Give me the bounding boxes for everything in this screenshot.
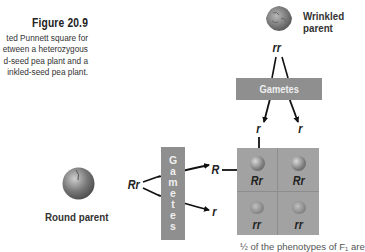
line-rr-left (272, 57, 276, 78)
wrinkled-genotype: rr (272, 41, 280, 55)
gametes-box-top: Gametes (236, 78, 322, 100)
gamete-allele: r (212, 205, 216, 219)
gamete-allele: r (298, 122, 302, 136)
gamete-allele: r (256, 122, 260, 136)
punnett-square: Rr Rr rr rr (237, 148, 319, 235)
result-caption: ½ of the phenotypes of F₁ are (240, 241, 365, 252)
gamete-allele: R (211, 163, 219, 177)
round-pea-icon (62, 167, 95, 200)
round-pea-icon (291, 156, 306, 171)
punnett-cell: rr (278, 192, 319, 236)
wrinkled-pea-icon (250, 201, 264, 214)
punnett-cell: Rr (278, 148, 319, 192)
round-pea-icon (250, 156, 265, 171)
line-rr-right (282, 57, 288, 78)
wrinkled-parent-label: Wrinkled parent (303, 10, 344, 34)
wrinkled-pea-icon (265, 5, 293, 32)
wrinkled-pea-icon (292, 201, 306, 214)
round-genotype: Rr (128, 178, 140, 192)
round-parent-label: Round parent (45, 211, 109, 223)
punnett-cell: rr (237, 192, 278, 236)
punnett-cell: Rr (237, 148, 278, 192)
gametes-box-left: G a m e t e s (161, 147, 185, 240)
